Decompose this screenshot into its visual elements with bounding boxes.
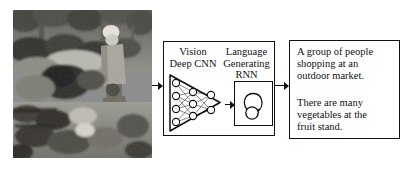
rnn-recurrent-loop-icon <box>235 82 272 125</box>
vision-cnn-label: Vision Deep CNN <box>166 46 220 69</box>
model-box: Vision Deep CNN Language Generating RNN <box>163 41 275 136</box>
caption-box: A group of people shopping at an outdoor… <box>289 40 400 139</box>
figure-canvas: Vision Deep CNN Language Generating RNN <box>0 0 405 170</box>
rnn-box <box>234 81 273 126</box>
language-rnn-label: Language Generating RNN <box>218 46 275 81</box>
outdoor-market-photo <box>13 10 152 158</box>
caption-sentence-1: A group of people shopping at an outdoor… <box>297 46 393 83</box>
cnn-triangle-network-icon <box>167 73 225 134</box>
caption-sentence-2: There are many vegetables at the fruit s… <box>297 97 393 134</box>
arrow-photo-to-model <box>152 81 163 90</box>
arrow-model-to-caption <box>275 81 289 90</box>
